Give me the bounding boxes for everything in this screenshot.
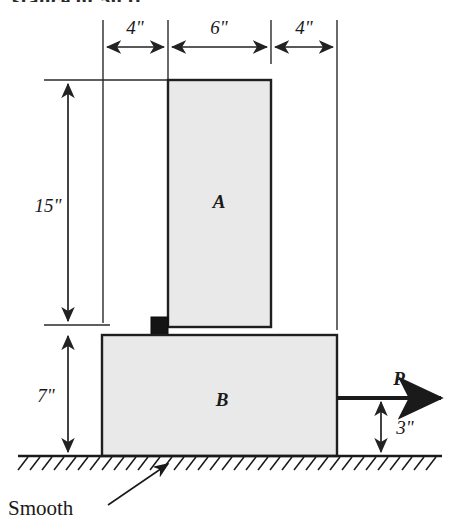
block-b-label: B xyxy=(215,389,229,410)
ground-hatching xyxy=(18,457,436,470)
smooth-surface-label: Smooth xyxy=(8,496,74,520)
ground-surface xyxy=(18,456,442,470)
dimension-label-7in: 7" xyxy=(37,385,56,406)
figure-canvas: stance of 50 ft. xyxy=(0,0,458,530)
mechanics-diagram: 4" 6" 4" 15" 7" A B P xyxy=(0,0,458,530)
force-p-label: P xyxy=(392,368,405,389)
dimension-label-3in: 3" xyxy=(395,417,415,438)
dimension-label-6in: 6" xyxy=(210,17,229,38)
cropped-problem-text: stance of 50 ft. xyxy=(12,0,148,2)
stop-block-icon xyxy=(151,317,168,335)
dimension-label-15in: 15" xyxy=(35,195,63,216)
smooth-leader-line xyxy=(108,464,168,505)
dimension-label-4in-right: 4" xyxy=(295,17,314,38)
block-a-label: A xyxy=(212,191,226,212)
dimension-label-4in-left: 4" xyxy=(126,17,145,38)
extension-lines-left xyxy=(44,80,175,325)
